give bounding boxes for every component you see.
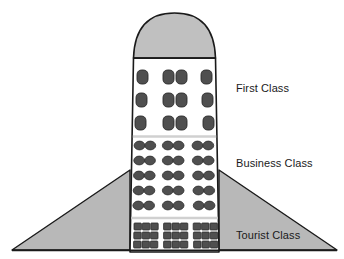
seat-tourist-r3-s7 <box>194 241 201 248</box>
seat-business-r4-s3 <box>162 186 173 195</box>
seat-business-r3-s4 <box>173 171 184 180</box>
seat-first-r3-s2 <box>163 116 174 130</box>
tourist-class-seats <box>134 223 218 248</box>
seat-first-r1-s3 <box>176 70 187 84</box>
seat-tourist-r2-s8 <box>202 232 209 239</box>
seat-first-r2-s3 <box>176 93 187 107</box>
seat-business-r4-s4 <box>173 186 184 195</box>
seat-first-r2-s4 <box>202 93 213 107</box>
seat-business-r3-s1 <box>134 171 145 180</box>
seat-tourist-r1-s9 <box>210 223 217 230</box>
seat-business-r3-s3 <box>162 171 173 180</box>
seat-business-r5-s2 <box>144 201 155 210</box>
seat-business-r2-s5 <box>192 156 203 165</box>
seat-tourist-r3-s3 <box>150 241 157 248</box>
seat-first-r2-s1 <box>136 93 147 107</box>
nose-cone <box>134 13 216 58</box>
seat-tourist-r3-s8 <box>202 241 209 248</box>
seat-tourist-r2-s6 <box>180 232 187 239</box>
seat-business-r5-s1 <box>133 201 144 210</box>
label-tourist-class: Tourist Class <box>236 229 300 241</box>
seat-tourist-r3-s6 <box>180 241 187 248</box>
seat-business-r1-s1 <box>134 141 145 150</box>
seat-business-r5-s3 <box>162 201 173 210</box>
seat-tourist-r2-s3 <box>151 232 158 239</box>
seat-tourist-r1-s8 <box>202 223 209 230</box>
seat-business-r4-s5 <box>193 186 204 195</box>
seat-tourist-r1-s7 <box>193 223 200 230</box>
seat-business-r1-s6 <box>203 141 214 150</box>
label-first-class: First Class <box>236 82 289 94</box>
seat-business-r2-s1 <box>134 156 145 165</box>
seat-first-r1-s4 <box>201 70 212 84</box>
seat-business-r5-s5 <box>193 201 204 210</box>
seat-first-r2-s2 <box>163 93 174 107</box>
seat-tourist-r1-s1 <box>134 223 141 230</box>
seat-business-r2-s2 <box>145 156 156 165</box>
seat-business-r5-s4 <box>173 201 184 210</box>
seat-tourist-r1-s6 <box>180 223 187 230</box>
seat-business-r3-s5 <box>193 171 204 180</box>
seat-tourist-r2-s7 <box>193 232 200 239</box>
seat-tourist-r2-s9 <box>210 232 217 239</box>
seat-tourist-r1-s3 <box>151 223 158 230</box>
seat-tourist-r1-s5 <box>172 223 179 230</box>
aircraft-seating-diagram: First Class Business Class Tourist Class <box>0 0 344 259</box>
seat-tourist-r3-s9 <box>210 241 217 248</box>
seat-business-r5-s6 <box>204 201 215 210</box>
seat-business-r2-s6 <box>203 156 214 165</box>
seat-business-r3-s6 <box>204 171 215 180</box>
seat-tourist-r3-s4 <box>164 241 171 248</box>
seat-first-r3-s4 <box>203 116 214 130</box>
seat-first-r3-s3 <box>176 116 187 130</box>
seat-tourist-r2-s1 <box>134 232 141 239</box>
seat-business-r4-s2 <box>144 186 155 195</box>
seat-business-r2-s3 <box>162 156 173 165</box>
seat-tourist-r2-s2 <box>142 232 149 239</box>
seat-tourist-r1-s2 <box>142 223 149 230</box>
label-business-class: Business Class <box>236 157 313 169</box>
seat-first-r1-s2 <box>163 70 174 84</box>
seat-business-r4-s1 <box>133 186 144 195</box>
seat-business-r3-s2 <box>144 171 155 180</box>
seat-business-r1-s5 <box>192 141 203 150</box>
seat-tourist-r2-s5 <box>172 232 179 239</box>
seat-business-r1-s3 <box>162 141 173 150</box>
seat-business-r1-s4 <box>173 141 184 150</box>
seat-business-r1-s2 <box>145 141 156 150</box>
seat-tourist-r3-s1 <box>134 241 141 248</box>
seat-tourist-r2-s4 <box>164 232 171 239</box>
seat-first-r1-s1 <box>137 70 148 84</box>
seat-business-r2-s4 <box>173 156 184 165</box>
aircraft-diagram-svg <box>0 0 344 259</box>
seat-tourist-r3-s5 <box>172 241 179 248</box>
left-wing <box>12 170 130 250</box>
seat-tourist-r3-s2 <box>142 241 149 248</box>
seat-tourist-r1-s4 <box>164 223 171 230</box>
seat-business-r4-s6 <box>204 186 215 195</box>
seat-first-r3-s1 <box>135 116 146 130</box>
